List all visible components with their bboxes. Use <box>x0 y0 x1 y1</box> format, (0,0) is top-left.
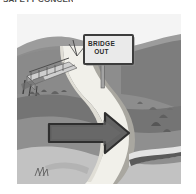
page-root: SAFETY CONCERNS <box>0 0 196 194</box>
clipped-caption: SAFETY CONCERNS <box>3 0 73 6</box>
sign-text-line-2: OUT <box>86 49 117 56</box>
clipped-caption-text: SAFETY CONCERNS <box>3 0 73 5</box>
sign-text-line-1: BRIDGE <box>86 41 117 48</box>
